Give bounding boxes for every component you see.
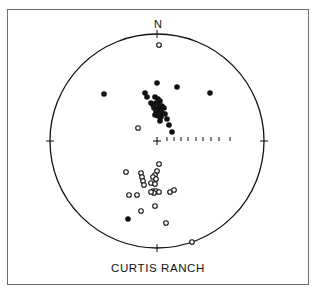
filled-data-point [101,91,107,97]
filled-data-point [164,116,170,122]
open-data-point [136,126,141,131]
filled-points [101,80,213,222]
open-data-point [142,183,147,188]
filled-data-point [144,94,150,100]
stereonet [0,0,316,289]
filled-data-point [161,105,167,111]
filled-data-point [154,80,160,86]
filled-data-point [169,129,175,135]
open-data-point [139,209,144,214]
open-data-point [157,43,162,48]
open-data-point [172,188,177,193]
open-data-point [124,170,129,175]
north-label: N [152,18,164,30]
filled-data-point [207,90,213,96]
open-points [124,43,195,245]
open-data-point [164,221,169,226]
open-data-point [135,193,140,198]
open-data-point [154,177,159,182]
filled-data-point [157,118,163,124]
filled-data-point [166,122,172,128]
filled-data-point [125,216,131,222]
open-data-point [157,162,162,167]
center-cross-icon [153,137,161,145]
filled-data-point [162,111,168,117]
open-data-point [157,190,162,195]
figure-caption: CURTIS RANCH [0,262,316,274]
open-data-point [190,240,195,245]
filled-data-point [174,84,180,90]
open-data-point [149,190,154,195]
open-data-point [153,204,158,209]
open-data-point [127,193,132,198]
east-scale-ticks [167,137,230,141]
open-data-point [153,182,158,187]
